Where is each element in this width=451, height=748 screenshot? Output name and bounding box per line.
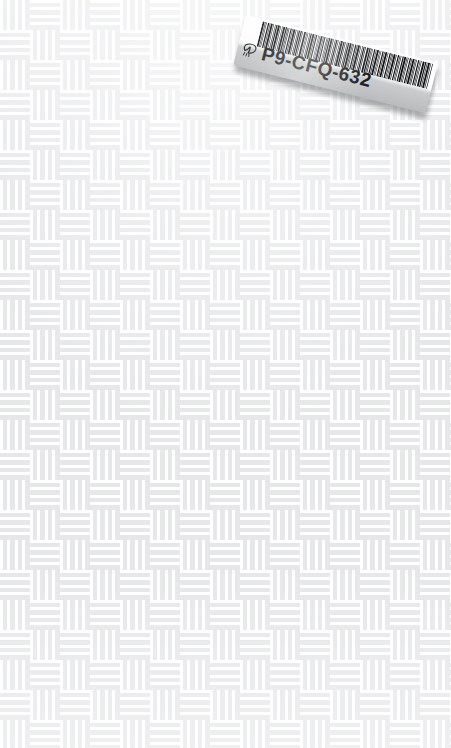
woven-background-vertical-stripes	[0, 0, 451, 748]
scene-root: P9-CFQ-632	[0, 0, 451, 748]
leaf-glyph	[241, 40, 261, 60]
